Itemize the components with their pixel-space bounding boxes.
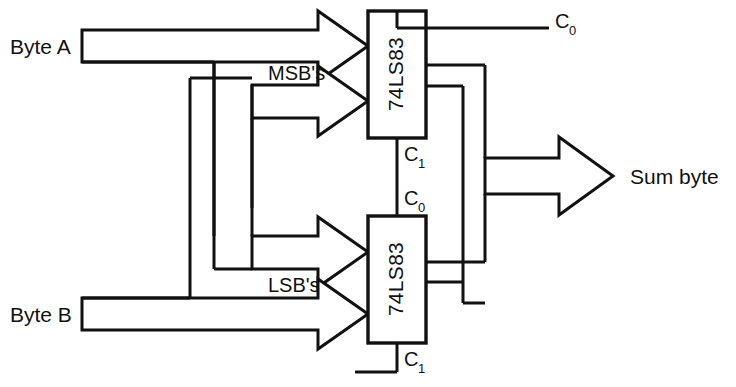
carry-in-bottom-wire (355, 343, 397, 372)
carry-out-bottom-base: C (404, 187, 418, 209)
chip-lsb-sum-out-lower (426, 282, 485, 303)
lsb-bus-label: LSB's (268, 274, 320, 296)
chip-lsb: 74LS83 (368, 216, 426, 343)
chip-msb: 74LS83 (368, 11, 426, 138)
carry-in-bottom-label: C 1 (404, 348, 425, 376)
chip-msb-label: 74LS83 (384, 37, 407, 111)
byte-b-label: Byte B (10, 303, 72, 326)
carry-out-top-base: C (555, 10, 569, 32)
carry-in-bottom-base: C (404, 348, 418, 370)
byte-b-bus-arrow (82, 279, 368, 349)
carry-out-top-sub: 0 (569, 23, 576, 38)
carry-out-bottom-sub: 0 (418, 200, 425, 215)
byte-a-lsb-route (82, 62, 214, 236)
circuit-svg: 74LS83 74LS83 Byte (0, 0, 736, 387)
chip-msb-sum-out-lower (426, 86, 463, 282)
byte-a-lsb-entry (214, 62, 252, 269)
chip-lsb-label: 74LS83 (384, 242, 407, 316)
carry-in-bottom-sub: 1 (418, 361, 425, 376)
sum-byte-arrow (485, 137, 613, 215)
sum-byte-label: Sum byte (630, 165, 719, 188)
msb-bus-label: MSB's (268, 62, 325, 84)
carry-out-top-label: C 0 (555, 10, 576, 38)
carry-in-top-label: C 1 (404, 143, 425, 171)
chip-msb-sum-out-upper (426, 65, 485, 158)
carry-out-bottom-label: C 0 (404, 187, 425, 215)
byte-b-msb-branch (82, 78, 252, 298)
carry-in-top-base: C (404, 143, 418, 165)
byte-a-label: Byte A (10, 35, 71, 58)
carry-in-top-sub: 1 (418, 156, 425, 171)
circuit-diagram: 74LS83 74LS83 Byte (0, 0, 736, 387)
chip-lsb-sum-out-upper (426, 194, 485, 262)
